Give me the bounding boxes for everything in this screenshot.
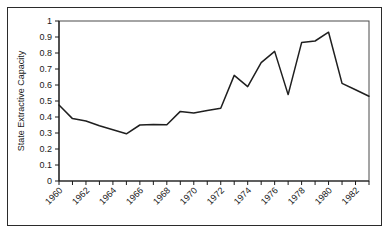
y-tick-label: 0.6: [39, 80, 52, 90]
plot-area: [59, 21, 369, 181]
data-series: [59, 32, 369, 134]
line-chart: 00.10.20.30.40.50.60.70.80.91 1960196219…: [0, 0, 390, 234]
series-line-state-extractive-capacity: [59, 32, 369, 134]
axis-lines: [59, 21, 369, 181]
y-tick-label: 0.9: [39, 32, 52, 42]
x-tick-label: 1974: [232, 185, 253, 206]
x-tick-label: 1970: [178, 185, 199, 206]
y-axis-tick-labels: 00.10.20.30.40.50.60.70.80.91: [39, 16, 52, 186]
y-tick-label: 0.1: [39, 160, 52, 170]
x-tick-label: 1964: [97, 185, 118, 206]
x-tick-label: 1968: [151, 185, 172, 206]
y-axis-title: State Extractive Capacity: [16, 50, 26, 151]
x-tick-label: 1976: [259, 185, 280, 206]
x-tick-label: 1960: [43, 185, 64, 206]
x-axis-tick-labels: 1960196219641966196819701972197419761978…: [43, 185, 361, 206]
y-tick-label: 0.4: [39, 112, 52, 122]
x-tick-label: 1980: [313, 185, 334, 206]
x-tick-label: 1978: [286, 185, 307, 206]
y-tick-label: 0.3: [39, 128, 52, 138]
x-tick-label: 1966: [124, 185, 145, 206]
y-tick-label: 0.2: [39, 144, 52, 154]
y-tick-label: 0.7: [39, 64, 52, 74]
y-tick-label: 1: [47, 16, 52, 26]
y-tick-label: 0.5: [39, 96, 52, 106]
y-tick-label: 0: [47, 176, 52, 186]
x-tick-label: 1962: [70, 185, 91, 206]
x-tick-label: 1982: [340, 185, 361, 206]
y-tick-label: 0.8: [39, 48, 52, 58]
x-tick-label: 1972: [205, 185, 226, 206]
x-axis-ticks: [59, 181, 369, 185]
